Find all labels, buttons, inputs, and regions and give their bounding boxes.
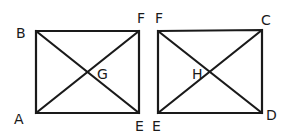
left-rectangle: B F A E G: [14, 10, 145, 134]
label-e-left: E: [135, 118, 144, 134]
label-f-left: F: [137, 10, 145, 26]
label-e-right: E: [152, 118, 161, 134]
two-rectangles-diagram: B F A E G F C D E H: [0, 0, 288, 136]
right-rectangle: F C D E H: [152, 10, 277, 134]
label-h: H: [192, 66, 203, 82]
label-a: A: [14, 111, 24, 127]
label-g: G: [97, 66, 108, 82]
label-f-right: F: [155, 10, 163, 26]
label-d: D: [266, 107, 277, 123]
label-c: C: [261, 12, 271, 28]
label-b: B: [16, 25, 26, 41]
